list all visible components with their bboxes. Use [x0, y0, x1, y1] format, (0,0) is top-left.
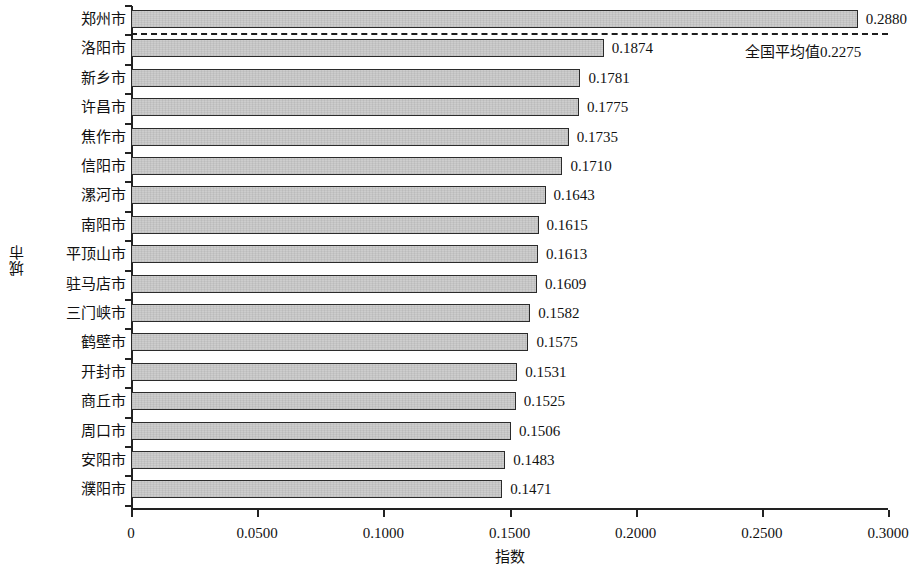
- bar: [131, 98, 579, 116]
- bar-value-label: 0.1525: [524, 392, 565, 410]
- national-average-reference-line: [131, 33, 888, 35]
- bar: [131, 480, 502, 498]
- bar-value-label: 0.1471: [510, 480, 551, 498]
- category-label: 新乡市: [81, 69, 126, 87]
- y-axis-tick: [125, 64, 132, 66]
- category-label: 平顶山市: [66, 245, 126, 263]
- category-label: 开封市: [81, 363, 126, 381]
- y-axis-tick: [125, 475, 132, 477]
- x-axis-tick-label: 0.1500: [489, 525, 530, 542]
- x-axis-tick: [510, 510, 512, 517]
- bar: [131, 128, 569, 146]
- category-label: 漯河市: [81, 186, 126, 204]
- x-axis-tick-label: 0.2000: [615, 525, 656, 542]
- y-axis-tick: [125, 387, 132, 389]
- bar: [131, 422, 511, 440]
- bar-value-label: 0.1575: [536, 333, 577, 351]
- category-label: 周口市: [81, 422, 126, 440]
- x-axis-tick: [131, 510, 133, 517]
- bar-value-label: 0.1710: [570, 157, 611, 175]
- y-axis-tick: [125, 181, 132, 183]
- x-axis-title: 指数: [131, 545, 888, 566]
- national-average-label: 全国平均值0.2275: [745, 40, 861, 61]
- y-axis-tick: [125, 446, 132, 448]
- bar: [131, 333, 528, 351]
- x-axis-tick: [257, 510, 259, 517]
- x-axis-tick-label: 0.1000: [363, 525, 404, 542]
- category-label: 安阳市: [81, 451, 126, 469]
- bar-value-label: 0.1615: [547, 216, 588, 234]
- bar-value-label: 0.1609: [545, 275, 586, 293]
- bar: [131, 451, 505, 469]
- y-axis-title: 城市: [2, 0, 30, 520]
- plot-area: 0.28800.18740.17810.17750.17350.17100.16…: [131, 10, 888, 510]
- x-axis-tick: [762, 510, 764, 517]
- y-axis-category-labels: 郑州市洛阳市新乡市许昌市焦作市信阳市漯河市南阳市平顶山市驻马店市三门峡市鹤壁市开…: [30, 10, 128, 510]
- bar-value-label: 0.1582: [538, 304, 579, 322]
- y-axis-tick: [125, 5, 132, 7]
- bar-value-label: 0.1613: [546, 245, 587, 263]
- y-axis-tick: [125, 299, 132, 301]
- y-axis-tick: [125, 152, 132, 154]
- bar-value-label: 0.1775: [587, 98, 628, 116]
- category-label: 南阳市: [81, 216, 126, 234]
- category-label: 郑州市: [81, 10, 126, 28]
- x-axis-tick-label: 0.2500: [741, 525, 782, 542]
- bar: [131, 304, 530, 322]
- x-axis-tick-label: 0: [127, 525, 135, 542]
- bar: [131, 186, 546, 204]
- bar-value-label: 0.1506: [519, 422, 560, 440]
- y-axis-tick: [125, 211, 132, 213]
- bar-value-label: 0.1483: [513, 451, 554, 469]
- bar: [131, 363, 517, 381]
- bar-value-label: 0.2880: [866, 10, 907, 28]
- category-label: 鹤壁市: [81, 333, 126, 351]
- x-axis-tick-label: 0.3000: [867, 525, 908, 542]
- bar: [131, 275, 537, 293]
- y-axis-tick: [125, 93, 132, 95]
- y-axis-title-text: 城市: [6, 244, 27, 276]
- y-axis-tick: [125, 270, 132, 272]
- bar-value-label: 0.1643: [554, 186, 595, 204]
- category-label: 洛阳市: [81, 39, 126, 57]
- y-axis-tick: [125, 328, 132, 330]
- bar: [131, 216, 539, 234]
- bar: [131, 245, 538, 263]
- horizontal-bar-chart: 城市 郑州市洛阳市新乡市许昌市焦作市信阳市漯河市南阳市平顶山市驻马店市三门峡市鹤…: [0, 0, 924, 575]
- y-axis-tick: [125, 123, 132, 125]
- bar: [131, 392, 516, 410]
- category-label: 商丘市: [81, 392, 126, 410]
- category-label: 驻马店市: [66, 275, 126, 293]
- category-label: 濮阳市: [81, 480, 126, 498]
- x-axis-tick: [383, 510, 385, 517]
- y-axis-tick: [125, 358, 132, 360]
- category-label: 焦作市: [81, 128, 126, 146]
- category-label: 许昌市: [81, 98, 126, 116]
- x-axis-tick: [636, 510, 638, 517]
- x-axis-tick-label: 0.0500: [237, 525, 278, 542]
- y-axis-tick: [125, 505, 132, 507]
- x-axis-tick: [888, 510, 890, 517]
- bar: [131, 39, 604, 57]
- y-axis-tick: [125, 417, 132, 419]
- y-axis-tick: [125, 240, 132, 242]
- category-label: 信阳市: [81, 157, 126, 175]
- bar-value-label: 0.1874: [612, 39, 653, 57]
- category-label: 三门峡市: [66, 304, 126, 322]
- bar-value-label: 0.1531: [525, 363, 566, 381]
- bar: [131, 157, 562, 175]
- bar: [131, 69, 580, 87]
- bar-value-label: 0.1781: [588, 69, 629, 87]
- bar-value-label: 0.1735: [577, 128, 618, 146]
- bar: [131, 10, 858, 28]
